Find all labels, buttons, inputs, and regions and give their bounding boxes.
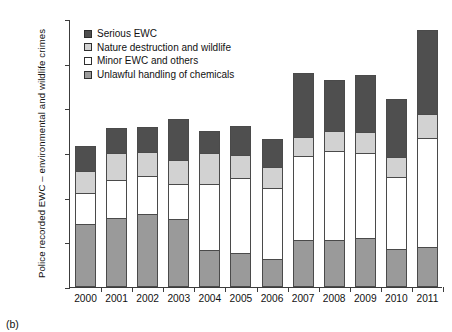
bar-segment bbox=[106, 180, 127, 218]
bar-segment bbox=[293, 137, 314, 155]
x-axis-tick bbox=[288, 287, 289, 292]
x-axis-tick bbox=[443, 287, 444, 292]
bar-segment bbox=[106, 153, 127, 181]
figure-caption: (b) bbox=[6, 318, 19, 330]
bar-segment bbox=[324, 80, 345, 131]
x-axis-tick bbox=[194, 287, 195, 292]
bar-segment bbox=[293, 73, 314, 138]
x-axis-tick bbox=[132, 287, 133, 292]
y-axis-title: Police recorded EWC – environmental and … bbox=[36, 9, 47, 299]
bar-2010[interactable] bbox=[386, 99, 407, 287]
bar-segment bbox=[230, 126, 251, 155]
bar-segment bbox=[386, 99, 407, 157]
bar-segment bbox=[168, 160, 189, 184]
bar-segment bbox=[355, 153, 376, 238]
bar-segment bbox=[355, 75, 376, 133]
bar-segment bbox=[293, 240, 314, 287]
bar-segment bbox=[168, 184, 189, 219]
legend-item[interactable]: Nature destruction and wildlife bbox=[84, 41, 234, 55]
bar-2011[interactable] bbox=[417, 30, 438, 287]
bar-2008[interactable] bbox=[324, 80, 345, 287]
y-axis-tick bbox=[65, 243, 70, 244]
bar-segment bbox=[230, 253, 251, 287]
bar-2009[interactable] bbox=[355, 75, 376, 287]
bar-segment bbox=[417, 247, 438, 287]
legend-swatch-icon bbox=[84, 30, 92, 38]
legend-label: Minor EWC and others bbox=[97, 54, 198, 68]
bar-segment bbox=[324, 240, 345, 287]
bar-segment bbox=[199, 250, 220, 287]
x-axis-tick bbox=[257, 287, 258, 292]
x-axis-tick bbox=[350, 287, 351, 292]
bar-segment bbox=[137, 127, 158, 152]
bar-segment bbox=[293, 156, 314, 240]
bar-segment bbox=[324, 131, 345, 151]
bar-segment bbox=[137, 176, 158, 214]
y-axis-tick bbox=[65, 65, 70, 66]
bar-segment bbox=[386, 249, 407, 287]
legend-item[interactable]: Serious EWC bbox=[84, 27, 234, 41]
y-axis-tick bbox=[65, 154, 70, 155]
x-axis-tick bbox=[412, 287, 413, 292]
y-axis-tick bbox=[65, 288, 70, 289]
bar-segment bbox=[262, 139, 283, 168]
bar-segment bbox=[75, 193, 96, 224]
bar-2003[interactable] bbox=[168, 119, 189, 287]
chart-legend: Serious EWCNature destruction and wildli… bbox=[84, 27, 234, 81]
bar-2002[interactable] bbox=[137, 127, 158, 287]
bar-segment bbox=[230, 155, 251, 178]
bar-segment bbox=[262, 259, 283, 287]
x-axis-tick bbox=[101, 287, 102, 292]
x-axis-tick bbox=[225, 287, 226, 292]
bar-segment bbox=[137, 214, 158, 287]
bar-segment bbox=[75, 224, 96, 287]
bar-segment bbox=[75, 146, 96, 171]
bar-2007[interactable] bbox=[293, 73, 314, 287]
bar-segment bbox=[262, 188, 283, 259]
bar-segment bbox=[75, 171, 96, 193]
bar-segment bbox=[355, 238, 376, 287]
bar-segment bbox=[417, 138, 438, 247]
bar-segment bbox=[417, 30, 438, 114]
bar-segment bbox=[230, 178, 251, 253]
legend-item[interactable]: Unlawful handling of chemicals bbox=[84, 68, 234, 82]
bar-2006[interactable] bbox=[262, 139, 283, 287]
y-axis-tick bbox=[65, 109, 70, 110]
x-axis-tick bbox=[163, 287, 164, 292]
y-axis-tick bbox=[65, 199, 70, 200]
bar-2001[interactable] bbox=[106, 128, 127, 287]
bar-2000[interactable] bbox=[75, 146, 96, 287]
bar-segment bbox=[262, 167, 283, 188]
bar-segment bbox=[168, 119, 189, 161]
legend-label: Unlawful handling of chemicals bbox=[97, 68, 234, 82]
bar-segment bbox=[106, 218, 127, 287]
bar-2005[interactable] bbox=[230, 126, 251, 287]
legend-swatch-icon bbox=[84, 57, 92, 65]
bar-segment bbox=[199, 131, 220, 153]
bar-segment bbox=[386, 177, 407, 248]
legend-item[interactable]: Minor EWC and others bbox=[84, 54, 234, 68]
x-axis-label-2011: 2011 bbox=[407, 293, 447, 304]
bar-2004[interactable] bbox=[199, 131, 220, 287]
bar-segment bbox=[324, 151, 345, 240]
legend-swatch-icon bbox=[84, 43, 92, 51]
bar-segment bbox=[199, 184, 220, 250]
x-axis-tick bbox=[319, 287, 320, 292]
bar-segment bbox=[355, 132, 376, 153]
legend-label: Nature destruction and wildlife bbox=[97, 41, 231, 55]
legend-label: Serious EWC bbox=[97, 27, 157, 41]
bar-segment bbox=[168, 219, 189, 287]
figure-container: Police recorded EWC – environmental and … bbox=[0, 0, 452, 332]
bar-segment bbox=[386, 157, 407, 178]
y-axis-tick bbox=[65, 20, 70, 21]
bar-segment bbox=[199, 153, 220, 184]
bar-segment bbox=[137, 152, 158, 176]
legend-swatch-icon bbox=[84, 71, 92, 79]
bar-segment bbox=[417, 114, 438, 139]
bar-segment bbox=[106, 128, 127, 153]
x-axis-tick bbox=[381, 287, 382, 292]
